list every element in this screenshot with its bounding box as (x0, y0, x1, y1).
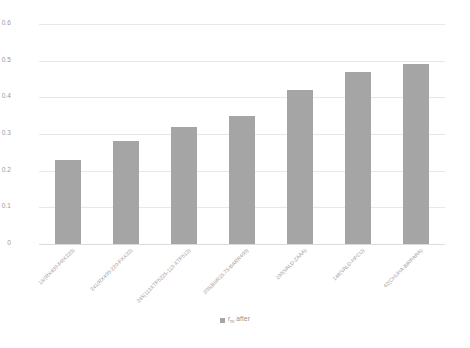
gridline (39, 244, 445, 245)
x-axis-tick-label: 42(CHUHA-BIRPARA) (383, 248, 424, 289)
y-axis-tick-label: 0.5 (0, 57, 11, 64)
x-axis-tick-label: 205(BSR15.75-BARR400) (202, 248, 249, 295)
x-axis-tick-label: 16/(RX400-PRX220) (38, 248, 76, 286)
y-axis-tick-label: 0.4 (0, 93, 11, 100)
y-axis-tick-label: 0.1 (0, 203, 11, 210)
chart-legend: rm after (0, 316, 470, 325)
bar (287, 90, 313, 244)
bar (171, 127, 197, 244)
y-axis-tick-label: 0 (0, 240, 11, 247)
legend-swatch-icon (220, 318, 225, 323)
x-axis-tick-label: 100(VALD-ZAAA) (275, 248, 308, 281)
y-axis-tick-label: 0.3 (0, 130, 11, 137)
x-axis-labels: 16/(RX400-PRX220)241(RX400-220-PXX33)245… (39, 246, 445, 308)
y-axis-tick-label: 0.6 (0, 20, 11, 27)
bar-chart: 00.10.20.30.40.50.6 16/(RX400-PRX220)241… (0, 0, 470, 348)
bars-layer (39, 24, 445, 244)
bar (345, 72, 371, 244)
x-axis-tick-label: 245(113XTP5225-113-XTP513) (136, 248, 192, 304)
bar (229, 116, 255, 244)
x-axis-tick-label: 148(VALD-HPCU) (332, 248, 366, 282)
bar (55, 160, 81, 244)
x-axis-tick-label: 241(RX400-220-PXX33) (90, 248, 134, 292)
bar (113, 141, 139, 244)
legend-label: rm after (228, 316, 250, 325)
y-axis-tick-label: 0.2 (0, 167, 11, 174)
bar (403, 64, 429, 244)
